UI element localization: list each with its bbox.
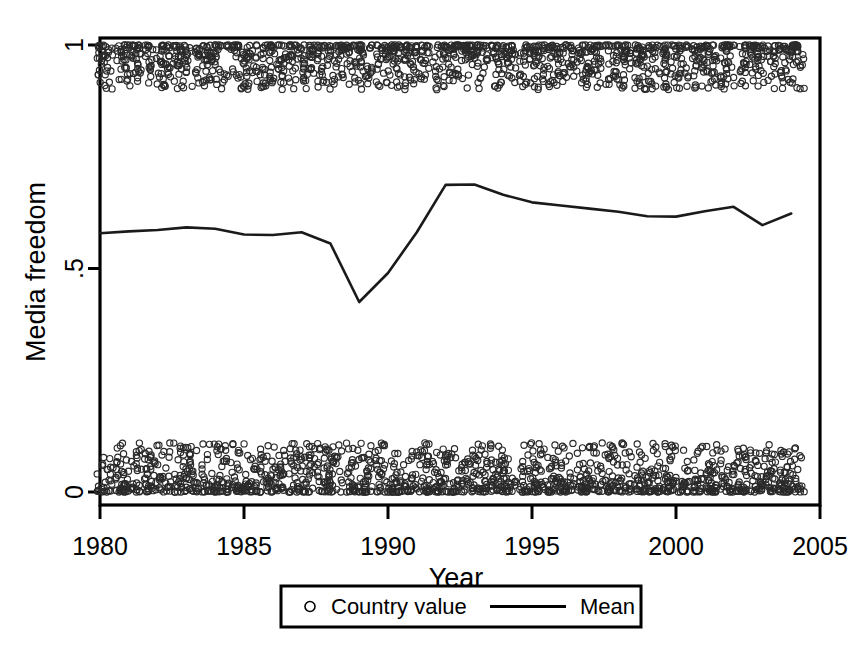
x-tick-label-1980: 1980 (72, 532, 128, 560)
scatter-point (574, 467, 580, 473)
scatter-point (662, 75, 668, 81)
scatter-point (465, 72, 471, 78)
scatter-point (599, 440, 605, 446)
scatter-point (148, 73, 154, 79)
y-axis-title: Media freedom (21, 182, 51, 362)
scatter-point (293, 77, 299, 83)
scatter-point (684, 83, 690, 89)
x-tick-label-2005: 2005 (792, 532, 848, 560)
scatter-point (243, 471, 249, 477)
legend-label-country-value: Country value (331, 594, 467, 619)
scatter-point (368, 443, 374, 449)
scatter-point (120, 451, 126, 457)
scatter-point (800, 52, 806, 58)
scatter-point (801, 85, 807, 91)
scatter-point (499, 447, 505, 453)
scatter-point (680, 447, 686, 453)
scatter-point (731, 74, 737, 80)
scatter-point (382, 462, 388, 468)
scatter-point (522, 62, 528, 68)
scatter-point (346, 469, 352, 475)
scatter-point (336, 442, 342, 448)
scatter-point (222, 443, 228, 449)
scatter-point (446, 77, 452, 83)
scatter-point (766, 442, 772, 448)
scatter-point (552, 442, 558, 448)
scatter-point (422, 440, 428, 446)
scatter-point (215, 452, 221, 458)
scatter-point (560, 78, 566, 84)
scatter-point (337, 468, 343, 474)
scatter-point (555, 448, 561, 454)
scatter-point (755, 83, 761, 89)
scatter-point (291, 86, 297, 92)
scatter-point (640, 468, 646, 474)
scatter-point (705, 85, 711, 91)
scatter-point (339, 448, 345, 454)
scatter-point (136, 440, 142, 446)
x-tick-label-2000: 2000 (648, 532, 704, 560)
scatter-point (193, 447, 199, 453)
scatter-point (757, 450, 763, 456)
scatter-points-group (94, 42, 807, 495)
scatter-point (267, 57, 273, 63)
chart-figure: 1 .5 0 Media freedom 1980 1985 1990 1995… (0, 0, 859, 653)
scatter-point (782, 60, 788, 66)
x-tick-label-1995: 1995 (504, 532, 560, 560)
scatter-point (779, 85, 785, 91)
x-axis-tick-labels: 1980 1985 1990 1995 2000 2005 (72, 532, 848, 560)
scatter-point (343, 440, 349, 446)
scatter-point (409, 448, 415, 454)
scatter-point (286, 63, 292, 69)
scatter-point (517, 58, 523, 64)
scatter-point (422, 72, 428, 78)
scatter-point (645, 70, 651, 76)
scatter-point (654, 451, 660, 457)
scatter-point (189, 83, 195, 89)
scatter-point (699, 83, 705, 89)
scatter-point (209, 470, 215, 476)
y-tick-label-1: 1 (60, 38, 88, 52)
scatter-point (521, 442, 527, 448)
y-tick-label-0.5: .5 (60, 258, 88, 279)
scatter-point (634, 441, 640, 447)
scatter-point (761, 463, 767, 469)
scatter-point (606, 468, 612, 474)
scatter-point (731, 83, 737, 89)
plot-frame (100, 38, 820, 505)
scatter-point (210, 68, 216, 74)
scatter-point (561, 445, 567, 451)
scatter-point (321, 455, 327, 461)
scatter-point (154, 81, 160, 87)
scatter-point (346, 81, 352, 87)
scatter-point (279, 86, 285, 92)
scatter-point (287, 79, 293, 85)
y-axis-tick-labels: 1 .5 0 (60, 38, 88, 499)
scatter-point (402, 86, 408, 92)
y-axis-ticks (88, 45, 100, 492)
scatter-point (234, 465, 240, 471)
scatter-point (377, 83, 383, 89)
chart-legend: Country value Mean (281, 586, 641, 627)
scatter-point (176, 71, 182, 77)
scatter-point (691, 457, 697, 463)
scatter-point (401, 462, 407, 468)
scatter-point (271, 444, 277, 450)
scatter-point (440, 446, 446, 452)
scatter-point (358, 440, 364, 446)
scatter-point (771, 85, 777, 91)
scatter-point (107, 456, 113, 462)
scatter-point (269, 458, 275, 464)
scatter-point (127, 83, 133, 89)
legend-label-mean: Mean (580, 594, 635, 619)
scatter-point (496, 443, 502, 449)
x-tick-label-1990: 1990 (360, 532, 416, 560)
scatter-point (171, 440, 177, 446)
scatter-point (163, 465, 169, 471)
scatter-point (171, 78, 177, 84)
scatter-point (102, 72, 108, 78)
scatter-point (249, 455, 255, 461)
scatter-point (476, 85, 482, 91)
scatter-point (537, 452, 543, 458)
scatter-point (303, 86, 309, 92)
